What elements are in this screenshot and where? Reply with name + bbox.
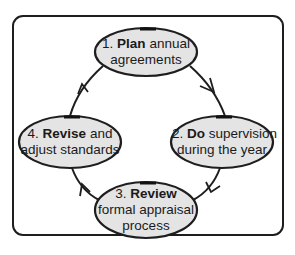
node-1-line2: agreements bbox=[96, 52, 196, 68]
node-2-line2: during the year bbox=[172, 142, 272, 158]
node-3-label: 3. Review formal appraisal process bbox=[96, 186, 196, 234]
node-2-rest: supervision bbox=[209, 126, 277, 141]
node-4-keyword: Revise bbox=[43, 126, 87, 141]
node-4-number: 4. bbox=[28, 126, 39, 141]
node-1-rest: annual bbox=[149, 36, 190, 51]
node-3-line2: formal appraisal bbox=[96, 202, 196, 218]
edge-1-to-2 bbox=[190, 66, 225, 116]
node-3-number: 3. bbox=[115, 186, 126, 201]
node-2-label: 2. Do supervision during the year bbox=[172, 126, 272, 158]
node-4-label: 4. Revise and adjust standards bbox=[20, 126, 120, 158]
node-1-keyword: Plan bbox=[117, 36, 146, 51]
node-1-label: 1. Plan annual agreements bbox=[96, 36, 196, 68]
node-3-line3: process bbox=[96, 218, 196, 234]
node-1-number: 1. bbox=[102, 36, 113, 51]
node-2-keyword: Do bbox=[187, 126, 205, 141]
node-4-line2: adjust standards bbox=[20, 142, 120, 158]
node-2-number: 2. bbox=[172, 126, 183, 141]
node-3-keyword: Review bbox=[130, 186, 177, 201]
node-4-rest: and bbox=[90, 126, 113, 141]
edge-3-to-4 bbox=[72, 168, 99, 200]
